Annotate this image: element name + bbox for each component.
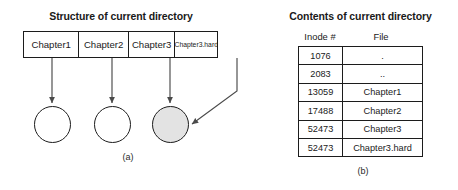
inode-circle-chapter1 (34, 106, 71, 143)
cell-file: Chapter1 (343, 83, 423, 101)
table-row: 2083 .. (299, 65, 423, 83)
cell-inode: 2083 (299, 65, 343, 83)
panel-b-caption: (b) (347, 166, 379, 176)
directory-structure-box: Chapter1 Chapter2 Chapter3 Chapter3.hard (23, 31, 218, 58)
column-header-file: File (342, 28, 420, 44)
figure-directory-hard-link: Structure of current directory Chapter1 … (0, 0, 458, 190)
directory-entry-chapter3[interactable]: Chapter3 (129, 32, 176, 57)
cell-file: Chapter2 (343, 102, 423, 120)
cell-inode: 13059 (299, 83, 343, 101)
directory-entry-chapter3-hard[interactable]: Chapter3.hard (175, 32, 217, 57)
panel-a-title: Structure of current directory (23, 10, 219, 22)
panel-a-caption: (a) (112, 152, 144, 162)
table-row: 52473 Chapter3.hard (299, 138, 423, 156)
table-row: 13059 Chapter1 (299, 83, 423, 101)
contents-table-headers: Inode # File (298, 28, 420, 44)
table-row: 1076 . (299, 47, 423, 65)
cell-inode: 52473 (299, 138, 343, 156)
cell-inode: 52473 (299, 120, 343, 138)
cell-file: . (343, 47, 423, 65)
cell-file: Chapter3 (343, 120, 423, 138)
arrow-chapter3hard-to-inode (192, 58, 237, 124)
directory-entry-chapter2[interactable]: Chapter2 (79, 32, 128, 57)
table-row: 17488 Chapter2 (299, 102, 423, 120)
contents-table: 1076 . 2083 .. 13059 Chapter1 17488 Chap… (298, 46, 423, 157)
inode-circle-chapter3-shared (152, 106, 189, 143)
cell-file: Chapter3.hard (343, 138, 423, 156)
panel-b-title: Contents of current directory (288, 10, 433, 22)
cell-inode: 1076 (299, 47, 343, 65)
column-header-inode: Inode # (298, 28, 342, 44)
table-row: 52473 Chapter3 (299, 120, 423, 138)
cell-file: .. (343, 65, 423, 83)
cell-inode: 17488 (299, 102, 343, 120)
inode-circle-chapter2 (94, 106, 131, 143)
directory-entry-chapter1[interactable]: Chapter1 (24, 32, 79, 57)
